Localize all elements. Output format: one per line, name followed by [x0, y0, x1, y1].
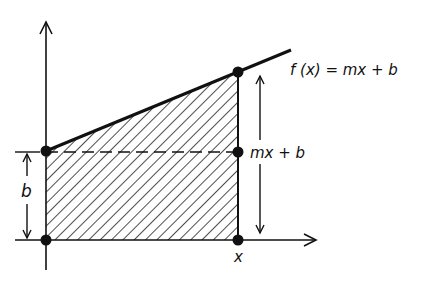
function-label: f (x) = mx + b [290, 61, 398, 79]
area-under-line-diagram: b mx + b f (x) = mx + b x [0, 0, 423, 283]
shaded-area [46, 72, 238, 240]
x-point [233, 235, 244, 246]
origin-point [41, 235, 52, 246]
mid-point [233, 147, 244, 158]
x-label: x [233, 248, 243, 266]
intercept-label: b [21, 181, 32, 201]
intercept-point [41, 146, 52, 157]
height-label: mx + b [250, 144, 305, 162]
top-point [233, 67, 244, 78]
